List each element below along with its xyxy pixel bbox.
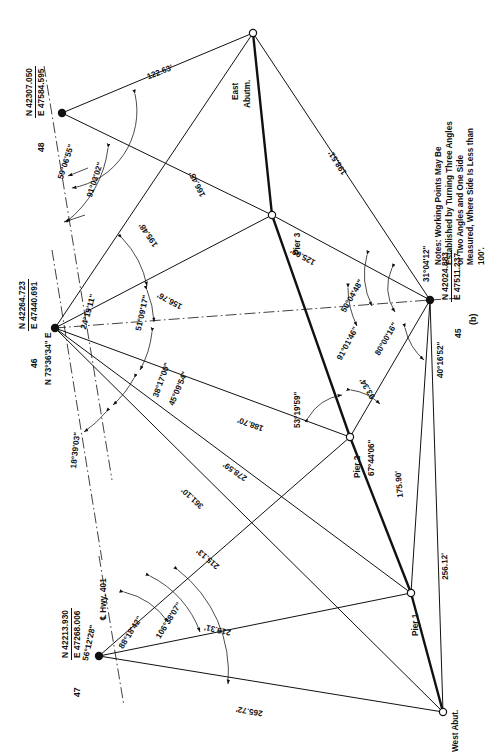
angle-arcs-48 [66,94,137,222]
marker-west-abutment [439,708,446,715]
coord-block-47: N 42213.930 E 47268.006 [60,608,82,660]
marker-point-48 [58,109,66,117]
line-47-west-abutm [99,656,443,712]
angle-pier2-a: 53°19'59" [294,392,303,428]
line-47-pier1 [99,593,411,656]
label-highway-centerline: ℄ Hwy. 401 [100,578,109,620]
survey-diagram-page: N 42307.050 E 47584.595 48 N 42264.723 E… [0,0,496,755]
coord-block-48: N 42307.050 E 47584.595 [24,66,46,118]
marker-point-47 [95,652,103,660]
bearing-label-46: N 73°36'34" E [45,333,54,385]
marker-pier-1 [407,589,414,596]
marker-point-46 [51,324,59,332]
dist-west-abutm-45: 256.12' [441,553,451,580]
notes-block: Notes: Working Points May Be Established… [434,115,488,265]
coord-easting-46: E 47440.691 [29,279,40,331]
point-number-45: 45 [453,328,463,338]
line-46-west-abutm [55,328,443,712]
survey-lines [55,33,443,712]
label-pier-1: Pier 1 [412,614,421,636]
figure-label: (b) [468,314,478,326]
angle-45-a: 31°04'12" [423,246,432,282]
angle-pier2-b: 67°44'06" [368,440,377,476]
coord-easting-48: E 47584.595 [36,66,47,118]
point-number-46: 46 [29,358,39,368]
line-48-46 [55,113,62,328]
chain-east-to-west [253,33,443,712]
marker-point-45 [426,296,434,304]
point-number-48: 48 [36,142,46,152]
line-46-pier2 [55,328,350,437]
marker-east-abutment [249,29,256,36]
label-east-abutment-line1: East [232,83,241,100]
coord-block-46: N 42264.723 E 47440.691 [17,279,39,331]
marker-pier-2 [346,433,353,440]
point-number-47: 47 [72,687,82,697]
coord-easting-47: E 47268.006 [72,608,83,660]
coord-northing-46: N 42264.723 [17,279,29,331]
line-pier2-45 [350,300,430,437]
marker-pier-3 [268,211,275,218]
angle-arcs-46 [84,238,154,432]
bridge-centerline-chain [253,33,443,712]
label-east-abutment-line2: Abutm. [244,80,253,108]
coord-northing-47: N 42213.930 [60,608,72,660]
line-pier1-45 [411,300,430,593]
centerline-46-45 [55,300,430,328]
coord-northing-48: N 42307.050 [24,66,36,118]
bearing-line-48 [44,66,112,480]
label-pier-2: Pier 2 [354,456,363,478]
line-48-pier3 [62,113,272,215]
label-west-abutment: West Abut. [452,710,461,752]
angle-45-e: 40°16'52" [437,342,446,378]
